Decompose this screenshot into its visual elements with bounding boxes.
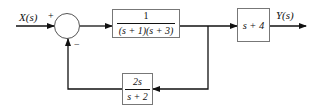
input-label: X(s): [19, 12, 37, 23]
output-label: Y(s): [276, 10, 294, 21]
output-transfer-block: s + 4: [237, 8, 270, 42]
block-diagram: X(s) + − 1 (s + 1)(s + 3) s + 4 Y(s) 2s …: [0, 0, 319, 108]
forward-fraction: 1 (s + 1)(s + 3): [117, 11, 176, 36]
feedback-transfer-block: 2s s + 2: [122, 73, 153, 105]
forward-denominator: (s + 1)(s + 3): [117, 24, 176, 36]
plus-sign: +: [48, 11, 54, 21]
feedback-numerator: 2s: [131, 77, 144, 89]
summing-junction: [55, 14, 80, 39]
forward-transfer-block: 1 (s + 1)(s + 3): [112, 9, 180, 38]
feedback-denominator: s + 2: [125, 90, 150, 102]
feedback-fraction: 2s s + 2: [125, 77, 150, 102]
output-expression: s + 4: [243, 20, 265, 31]
minus-sign: −: [74, 40, 80, 50]
forward-numerator: 1: [141, 11, 150, 23]
